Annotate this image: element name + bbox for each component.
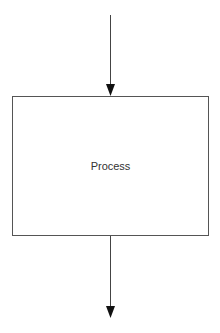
incoming-arrow (106, 15, 115, 96)
outgoing-arrow (106, 236, 115, 318)
incoming-arrowhead-icon (106, 84, 115, 96)
flowchart-diagram: Process (0, 0, 220, 333)
process-node[interactable]: Process (13, 97, 209, 236)
process-label: Process (91, 160, 131, 172)
outgoing-arrowhead-icon (106, 306, 115, 318)
